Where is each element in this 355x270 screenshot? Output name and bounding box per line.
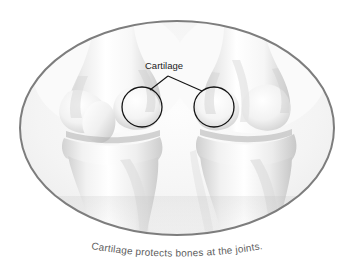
cartilage-label: Cartilage	[145, 60, 183, 71]
figure-caption: Cartilage protects bones at the joints.	[91, 240, 264, 258]
figure-caption-path: Cartilage protects bones at the joints.	[91, 240, 264, 258]
cartilage-knee-figure: Cartilage Cartilage protects bones at th…	[0, 0, 355, 270]
right-medial-condyle	[195, 87, 240, 130]
